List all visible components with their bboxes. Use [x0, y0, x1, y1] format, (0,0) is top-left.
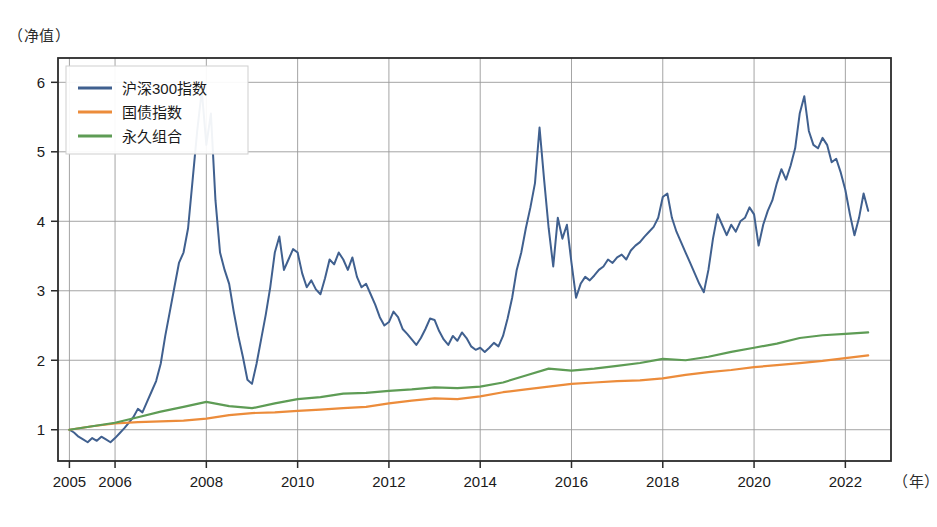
- x-tick-label: 2008: [190, 473, 223, 490]
- x-tick-label: 2016: [555, 473, 588, 490]
- y-tick-label: 5: [37, 143, 45, 160]
- y-tick-label: 6: [37, 74, 45, 91]
- y-tick-label: 4: [37, 213, 45, 230]
- x-tick-label: 2018: [646, 473, 679, 490]
- x-tick-label: 2012: [372, 473, 405, 490]
- net-value-line-chart: （净值） （年） 1234562005200620082010201220142…: [0, 0, 937, 527]
- x-tick-label: 2022: [829, 473, 862, 490]
- y-tick-label: 2: [37, 352, 45, 369]
- series-line: [69, 355, 868, 429]
- x-tick-label: 2010: [281, 473, 314, 490]
- legend-label: 永久组合: [122, 128, 182, 145]
- x-tick-label: 2006: [98, 473, 131, 490]
- series-line: [69, 332, 868, 429]
- y-tick-label: 1: [37, 421, 45, 438]
- x-tick-label: 2020: [737, 473, 770, 490]
- legend-label: 国债指数: [122, 104, 182, 121]
- y-tick-label: 3: [37, 282, 45, 299]
- legend-label: 沪深300指数: [122, 80, 207, 97]
- x-tick-label: 2005: [53, 473, 86, 490]
- x-tick-label: 2014: [464, 473, 497, 490]
- plot-svg: 1234562005200620082010201220142016201820…: [0, 0, 937, 527]
